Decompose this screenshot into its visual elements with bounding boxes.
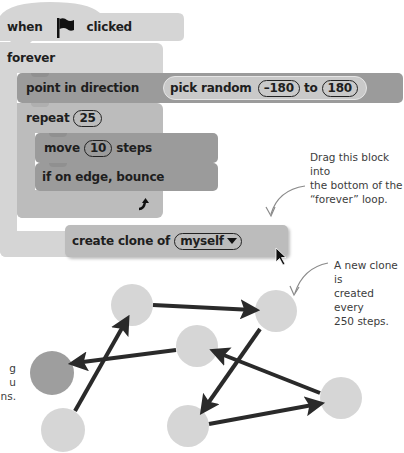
random-to-input[interactable]: 180 xyxy=(322,80,358,97)
sprite-clone-E xyxy=(41,408,85,452)
sprite-clone-C xyxy=(176,325,218,367)
bounce-label: if on edge, bounce xyxy=(42,170,164,184)
sprite-clone-A xyxy=(111,284,153,326)
clone-note: A new clone is created every 250 steps. xyxy=(334,258,404,328)
repeat-count-input[interactable]: 25 xyxy=(73,110,101,127)
clicked-label: clicked xyxy=(87,20,132,34)
clone-target-value: myself xyxy=(180,234,224,248)
when-flag-clicked-block[interactable]: when clicked xyxy=(7,16,132,38)
repeat-block-bottom[interactable] xyxy=(17,190,163,218)
loop-arrow-icon xyxy=(137,197,151,211)
pick-random-label: pick random xyxy=(170,81,252,95)
random-from-input[interactable]: –180 xyxy=(258,80,300,97)
sprite-clone-D xyxy=(30,351,74,395)
create-clone-block[interactable]: create clone of myself xyxy=(65,225,288,257)
path-arrow-G-to-C xyxy=(216,352,320,393)
pick-random-reporter[interactable]: pick random –180 to 180 xyxy=(163,76,367,100)
repeat-block[interactable]: repeat 25 xyxy=(17,103,163,133)
path-arrow-B-to-F xyxy=(204,329,260,409)
forever-label: forever xyxy=(7,51,55,65)
clipped-note: g u ns. xyxy=(0,361,16,403)
path-arrow-C-to-D xyxy=(75,350,176,363)
to-label: to xyxy=(304,81,318,95)
sprite-clone-F xyxy=(167,405,209,447)
triangle-down-icon xyxy=(227,238,237,244)
point-in-direction-block[interactable]: point in direction pick random –180 to 1… xyxy=(17,73,403,103)
clone-target-dropdown[interactable]: myself xyxy=(174,233,242,250)
when-label: when xyxy=(7,20,43,34)
steps-label: steps xyxy=(116,141,152,155)
if-on-edge-bounce-block[interactable]: if on edge, bounce xyxy=(35,163,218,191)
path-arrow-F-to-G xyxy=(209,404,318,424)
sprite-clone-G xyxy=(320,377,362,419)
move-steps-input[interactable]: 10 xyxy=(84,140,112,157)
drag-note: Drag this block into the bottom of the “… xyxy=(310,150,404,206)
forever-block-arm[interactable] xyxy=(0,42,17,257)
move-steps-block[interactable]: move 10 steps xyxy=(35,133,218,163)
move-label: move xyxy=(44,141,80,155)
green-flag-icon xyxy=(55,17,75,37)
path-arrow-A-to-B xyxy=(153,305,253,310)
forever-block[interactable]: forever xyxy=(0,43,163,73)
repeat-label: repeat xyxy=(26,111,69,125)
path-arrow-E-to-A xyxy=(75,321,126,411)
point-in-direction-label: point in direction xyxy=(26,81,163,95)
sprite-clone-B xyxy=(255,290,297,332)
create-clone-label: create clone of xyxy=(72,234,170,248)
